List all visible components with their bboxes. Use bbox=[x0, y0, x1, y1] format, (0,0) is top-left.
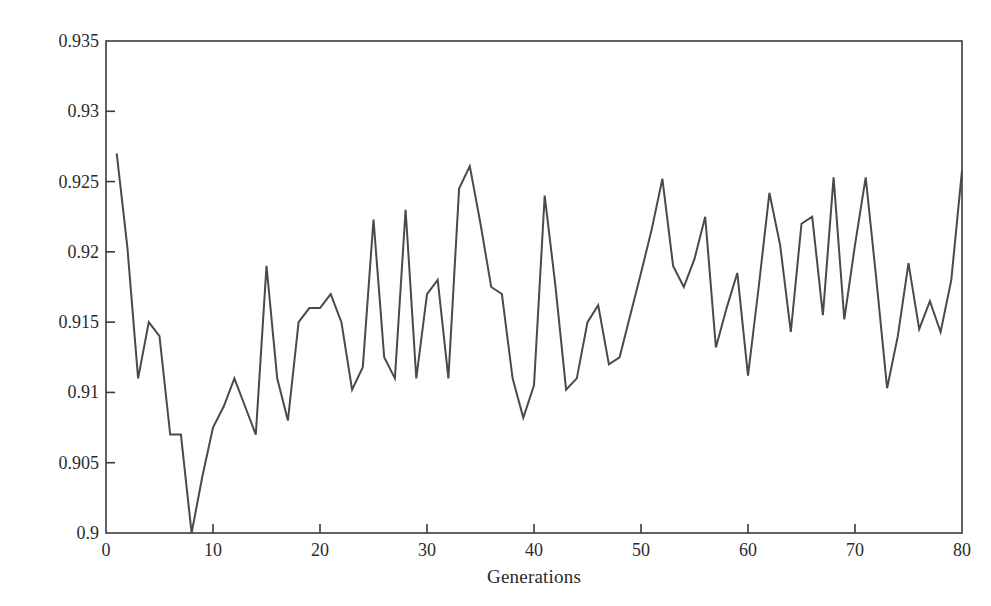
x-tick-label: 70 bbox=[825, 540, 885, 561]
y-tick-label: 0.935 bbox=[15, 31, 99, 52]
x-tick-label: 30 bbox=[397, 540, 457, 561]
x-tick-label: 40 bbox=[504, 540, 564, 561]
x-tick-label: 0 bbox=[76, 540, 136, 561]
x-tick-label: 10 bbox=[183, 540, 243, 561]
x-tick-label: 80 bbox=[932, 540, 991, 561]
x-tick-label: 20 bbox=[290, 540, 350, 561]
y-tick-label: 0.915 bbox=[15, 312, 99, 333]
y-tick-label: 0.93 bbox=[15, 101, 99, 122]
y-tick-label: 0.92 bbox=[15, 241, 99, 262]
x-tick-label: 60 bbox=[718, 540, 778, 561]
y-tick-label: 0.905 bbox=[15, 452, 99, 473]
x-tick-label: 50 bbox=[611, 540, 671, 561]
x-axis-title: Generations bbox=[106, 566, 962, 588]
y-axis-tick-labels: 0.90.9050.910.9150.920.9250.930.935 bbox=[0, 0, 99, 606]
accuracy-vs-generations-chart: 0.90.9050.910.9150.920.9250.930.935 Accu… bbox=[0, 0, 991, 606]
y-tick-label: 0.925 bbox=[15, 171, 99, 192]
y-tick-label: 0.91 bbox=[15, 382, 99, 403]
plot-canvas bbox=[0, 0, 991, 606]
plot-frame bbox=[106, 41, 962, 533]
